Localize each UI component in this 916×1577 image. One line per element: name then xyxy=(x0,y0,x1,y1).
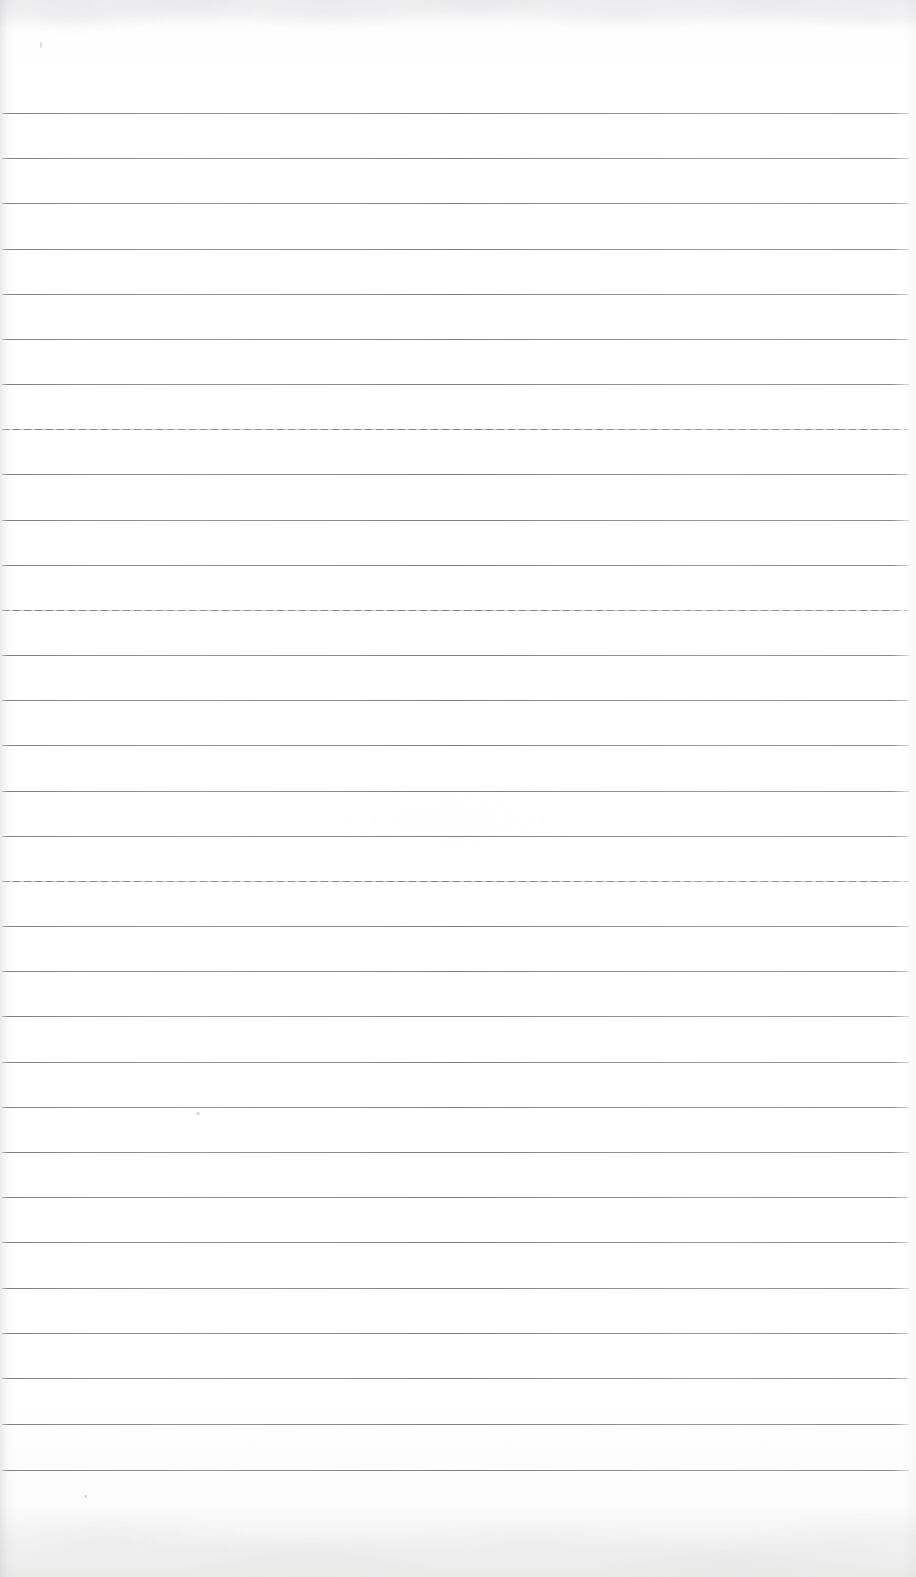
rule-line-14 xyxy=(2,700,909,701)
rule-line-21 xyxy=(2,1016,909,1017)
rule-line-27 xyxy=(2,1288,909,1289)
rule-line-23 xyxy=(2,1107,909,1108)
rule-line-10 xyxy=(2,520,909,521)
rule-line-26 xyxy=(2,1242,909,1243)
rule-line-4 xyxy=(2,249,909,250)
rule-line-1 xyxy=(2,113,909,114)
rule-line-16 xyxy=(2,791,909,792)
ruled-lines-layer xyxy=(0,0,916,1577)
rule-line-22 xyxy=(2,1062,909,1063)
rule-line-18 xyxy=(2,881,909,882)
rule-line-31 xyxy=(2,1470,909,1471)
rule-line-13 xyxy=(2,655,909,656)
scanned-page: A scanned blank sheet of wide-ruled note… xyxy=(0,0,916,1577)
rule-line-19 xyxy=(2,926,909,927)
rule-line-25 xyxy=(2,1197,909,1198)
rule-line-8 xyxy=(2,429,909,430)
rule-line-12 xyxy=(2,610,909,611)
rule-line-29 xyxy=(2,1378,909,1379)
rule-line-11 xyxy=(2,565,909,566)
rule-line-30 xyxy=(2,1424,909,1425)
rule-line-24 xyxy=(2,1152,909,1153)
rule-line-6 xyxy=(2,339,909,340)
rule-line-28 xyxy=(2,1333,909,1334)
rule-line-9 xyxy=(2,474,909,475)
rule-line-5 xyxy=(2,294,909,295)
rule-line-7 xyxy=(2,384,909,385)
rule-line-20 xyxy=(2,971,909,972)
rule-line-2 xyxy=(2,158,909,159)
rule-line-15 xyxy=(2,745,909,746)
rule-line-3 xyxy=(2,203,909,204)
rule-line-17 xyxy=(2,836,909,837)
